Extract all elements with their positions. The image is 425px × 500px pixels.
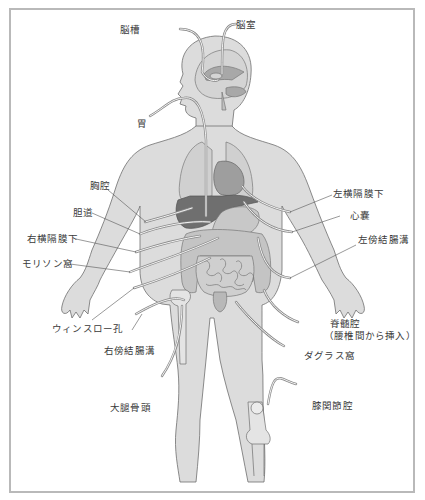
label-left-paracolic: 左傍結腸溝 bbox=[358, 234, 409, 245]
label-douglas-pouch: ダグラス窩 bbox=[304, 350, 355, 361]
label-morison-pouch: モリソン窩 bbox=[22, 258, 73, 269]
label-thoracic-cavity: 胸腔 bbox=[90, 180, 110, 191]
anatomy-illustration bbox=[0, 0, 425, 500]
label-stomach: 胃 bbox=[137, 118, 147, 129]
small-intestine bbox=[196, 256, 254, 297]
label-right-paracolic: 右傍結腸溝 bbox=[104, 345, 155, 356]
label-bile-duct: 胆道 bbox=[73, 207, 93, 218]
label-cistern: 脳槽 bbox=[120, 24, 140, 35]
label-left-subphrenic: 左横隔膜下 bbox=[333, 188, 384, 199]
label-femoral-head: 大腿骨頭 bbox=[110, 402, 151, 413]
label-spinal-cavity-note: （腰椎間から挿入） bbox=[324, 330, 416, 341]
label-knee-joint-cavity: 膝関節腔 bbox=[312, 400, 353, 411]
label-pericardium: 心嚢 bbox=[350, 210, 370, 221]
label-winslow-foramen: ウィンスロー孔 bbox=[52, 323, 123, 334]
label-ventricle: 脳室 bbox=[236, 19, 256, 30]
label-spinal-cavity: 脊髄腔 bbox=[330, 318, 361, 329]
label-right-subphrenic: 右横隔膜下 bbox=[27, 233, 78, 244]
